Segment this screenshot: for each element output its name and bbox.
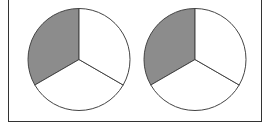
pie-charts	[0, 0, 266, 127]
pie-chart-left	[28, 9, 130, 111]
pie-chart-right	[144, 9, 246, 111]
